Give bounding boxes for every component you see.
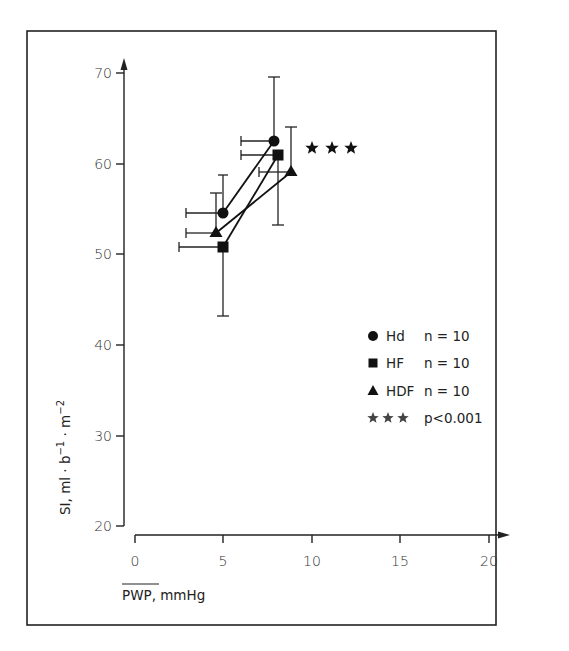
hdf-marker-triangle-icon bbox=[210, 226, 223, 237]
legend-triangle-icon bbox=[368, 385, 379, 395]
y-tick-50: 50 bbox=[94, 246, 112, 262]
hd-marker-circle-icon bbox=[218, 208, 229, 219]
y-tick-20: 20 bbox=[94, 518, 112, 534]
legend: Hd n = 10 HF n = 10 HDF n = 10 p<0.001 bbox=[367, 328, 482, 426]
legend-p-label: p<0.001 bbox=[424, 410, 483, 426]
y-tick-40: 40 bbox=[94, 337, 112, 353]
legend-hf-n: n = 10 bbox=[424, 355, 470, 371]
hdf-line bbox=[216, 172, 291, 233]
significance-stars bbox=[305, 141, 357, 154]
chart: 70 60 50 40 30 20 SI, ml · b−1 · m−2 0 5… bbox=[0, 0, 569, 651]
legend-hf-label: HF bbox=[386, 355, 404, 371]
legend-square-icon bbox=[369, 359, 378, 368]
star-icon bbox=[305, 141, 318, 154]
legend-hd-n: n = 10 bbox=[424, 328, 470, 344]
legend-hdf-label: HDF bbox=[386, 383, 414, 399]
y-axis bbox=[116, 66, 124, 526]
x-tick-15: 15 bbox=[391, 553, 409, 569]
x-axis-arrow-icon bbox=[498, 532, 510, 539]
legend-circle-icon bbox=[368, 331, 378, 341]
x-tick-10: 10 bbox=[303, 553, 321, 569]
hdf-marker-triangle-icon bbox=[285, 165, 298, 176]
x-tick-5: 5 bbox=[219, 553, 228, 569]
hf-marker-square-icon bbox=[273, 150, 284, 161]
y-axis-arrow-icon bbox=[121, 58, 128, 70]
star-icon bbox=[344, 141, 357, 154]
hd-marker-circle-icon bbox=[269, 136, 280, 147]
legend-hd-label: Hd bbox=[386, 328, 405, 344]
error-bars bbox=[179, 77, 297, 316]
y-tick-60: 60 bbox=[94, 156, 112, 172]
x-tick-0: 0 bbox=[131, 553, 140, 569]
y-axis-label: SI, ml · b−1 · m−2 bbox=[55, 400, 73, 515]
legend-stars-icon bbox=[367, 412, 408, 423]
x-tick-20: 20 bbox=[480, 553, 498, 569]
hf-marker-square-icon bbox=[218, 242, 229, 253]
hd-line bbox=[223, 141, 274, 213]
y-tick-30: 30 bbox=[94, 428, 112, 444]
x-axis-label: PWP, mmHg bbox=[122, 587, 205, 603]
star-icon bbox=[325, 141, 338, 154]
legend-hdf-n: n = 10 bbox=[424, 383, 470, 399]
y-tick-70: 70 bbox=[94, 65, 112, 81]
x-axis bbox=[135, 535, 500, 543]
